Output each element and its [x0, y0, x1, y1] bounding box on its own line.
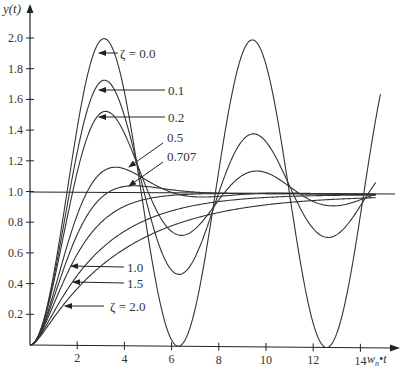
- y-tick-label: 1.6: [8, 92, 23, 106]
- x-tick-label: 12: [307, 353, 319, 367]
- response-curves: [30, 39, 380, 348]
- y-tick-label: 0.6: [8, 246, 23, 260]
- x-tick-label: 6: [169, 352, 175, 366]
- arrow-z10: [71, 266, 124, 267]
- x-axis-label: wn•t: [367, 352, 387, 368]
- y-tick-label: 0.2: [8, 307, 23, 321]
- x-tick-label: 2: [74, 351, 80, 365]
- x-tick-label: 10: [260, 353, 272, 367]
- arrow-z15: [73, 282, 124, 283]
- y-axis-arrow-icon: [27, 4, 34, 13]
- curve-zeta-0-707: [30, 186, 376, 345]
- label-zeta-1-0: 1.0: [127, 260, 143, 275]
- x-tick-label: 14: [354, 354, 366, 368]
- label-zeta-0-1: 0.1: [168, 83, 184, 98]
- arrow-z0707: [129, 162, 163, 186]
- x-axis-arrow-icon: [390, 345, 400, 352]
- label-zeta-0-5: 0.5: [167, 130, 183, 145]
- x-tick-label: 4: [121, 352, 127, 366]
- y-tick-label: 0.8: [8, 215, 23, 229]
- label-zeta-2-0: ζ = 2.0: [110, 299, 145, 314]
- y-tick-label: 1.4: [8, 123, 23, 137]
- curve-zeta-0-2: [30, 111, 376, 345]
- y-axis-label: y(t): [1, 1, 21, 16]
- label-zeta-0-707: 0.707: [167, 149, 197, 164]
- label-zeta-1-5: 1.5: [127, 276, 143, 291]
- label-zeta-0-2: 0.2: [168, 110, 184, 125]
- y-tick-label: 1.0: [8, 185, 23, 199]
- y-tick-label: 0.4: [8, 277, 23, 291]
- x-tick-label: 8: [216, 353, 222, 367]
- y-tick-label: 1.8: [8, 62, 23, 76]
- axes: [27, 4, 401, 352]
- curve-zeta-0-1: [30, 80, 376, 345]
- x-axis: [30, 345, 392, 348]
- label-zeta-0-0: ζ = 0.0: [120, 46, 155, 61]
- svg-text:wn•t: wn•t: [367, 352, 387, 368]
- y-tick-label: 1.2: [8, 154, 23, 168]
- y-tick-label: 2.0: [8, 31, 23, 45]
- step-response-chart: 0.20.40.60.81.01.21.41.61.82.0 246810121…: [0, 0, 413, 373]
